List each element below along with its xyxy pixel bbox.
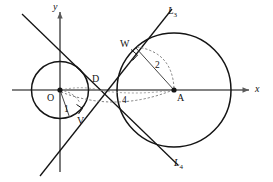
x-axis-arrow: [243, 87, 250, 92]
measure-label-radius-large: 2: [155, 61, 160, 71]
point-label-O: O: [47, 93, 54, 103]
geometry-diagram: x y O A D V W 1 2 4 L3 L4: [0, 0, 273, 182]
line-label-lower-subscript: 4: [180, 163, 184, 171]
measure-label-radius-small: 1: [64, 105, 69, 115]
tangent-lines-group: [22, 9, 178, 176]
line-label-upper: L3: [168, 6, 177, 19]
point-label-V: V: [77, 116, 84, 126]
right-angle-markers-group: [77, 50, 138, 115]
x-axis-label: x: [255, 84, 259, 94]
diagram-canvas: [0, 0, 273, 182]
point-label-D: D: [92, 74, 99, 84]
radius-arc-small: [60, 90, 80, 103]
measure-label-center-distance: 4: [122, 96, 127, 106]
point-dot-O: [57, 87, 62, 92]
y-axis-label: y: [53, 2, 57, 12]
point-label-W: W: [120, 39, 129, 49]
y-axis-arrow: [57, 12, 62, 19]
line-label-upper-subscript: 3: [174, 11, 178, 19]
line-label-lower: L4: [174, 158, 183, 171]
point-dot-A: [171, 87, 176, 92]
point-label-A: A: [177, 93, 184, 103]
